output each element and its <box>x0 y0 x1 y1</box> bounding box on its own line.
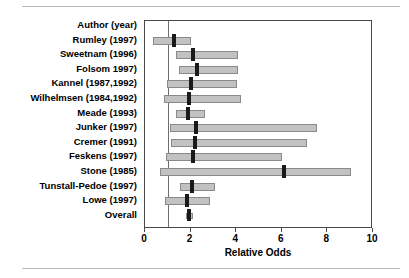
x-axis-tick-label: 2 <box>187 233 193 244</box>
study-label: Kannel (1987,1992) <box>0 78 137 88</box>
point-estimate-marker <box>190 180 194 193</box>
study-label: Folsom 1997) <box>0 64 137 74</box>
point-estimate-marker <box>193 136 197 149</box>
x-axis-tick-label: 8 <box>324 233 330 244</box>
point-estimate-marker <box>195 63 199 76</box>
confidence-interval-bar <box>164 95 241 103</box>
x-axis-tick-label: 10 <box>366 233 377 244</box>
point-estimate-marker <box>191 150 195 163</box>
confidence-interval-bar <box>166 153 282 161</box>
point-estimate-marker <box>187 92 191 105</box>
study-label: Cremer (1991) <box>0 137 137 147</box>
x-axis-tick <box>372 228 373 232</box>
point-estimate-marker <box>189 77 193 90</box>
confidence-interval-bar <box>176 51 239 59</box>
x-axis-tick <box>144 228 145 232</box>
point-estimate-marker <box>194 121 198 134</box>
point-estimate-marker <box>191 48 195 61</box>
forest-plot-figure: Author (year)Rumley (1997)Sweetnam (1996… <box>0 0 409 278</box>
confidence-interval-bar <box>170 124 317 132</box>
point-estimate-marker <box>185 194 189 207</box>
study-label: Rumley (1997) <box>0 35 137 45</box>
x-axis-tick-label: 0 <box>141 233 147 244</box>
study-label: Sweetnam (1996) <box>0 49 137 59</box>
study-label: Meade (1993) <box>0 108 137 118</box>
confidence-interval-bar <box>160 168 352 176</box>
confidence-interval-bar <box>167 80 238 88</box>
study-label: Lowe (1997) <box>0 195 137 205</box>
reference-line <box>168 21 169 227</box>
point-estimate-marker <box>187 209 191 221</box>
plot-area <box>144 20 372 228</box>
confidence-interval-bar <box>179 66 238 74</box>
study-label: Junker (1997) <box>0 122 137 132</box>
study-label-column: Author (year)Rumley (1997)Sweetnam (1996… <box>0 20 140 228</box>
x-axis-tick <box>281 228 282 232</box>
column-header-author-year: Author (year) <box>0 20 137 30</box>
point-estimate-marker <box>172 34 176 47</box>
confidence-interval-bar <box>171 139 307 147</box>
x-axis: Relative Odds 0246810 <box>144 228 372 278</box>
confidence-interval-bar <box>180 183 214 191</box>
confidence-interval-bar <box>176 110 206 118</box>
x-axis-tick <box>326 228 327 232</box>
point-estimate-marker <box>186 107 190 120</box>
study-label: Feskens (1997) <box>0 151 137 161</box>
study-label: Wilhelmsen (1984,1992) <box>0 93 137 103</box>
figure-top-rule <box>22 6 400 7</box>
x-axis-tick <box>235 228 236 232</box>
study-label: Stone (1985) <box>0 166 137 176</box>
x-axis-tick-label: 6 <box>278 233 284 244</box>
x-axis-tick <box>190 228 191 232</box>
study-label: Overall <box>0 210 137 220</box>
point-estimate-marker <box>282 165 286 178</box>
x-axis-title: Relative Odds <box>144 247 372 258</box>
study-label: Tunstall-Pedoe (1997) <box>0 181 137 191</box>
x-axis-tick-label: 4 <box>232 233 238 244</box>
